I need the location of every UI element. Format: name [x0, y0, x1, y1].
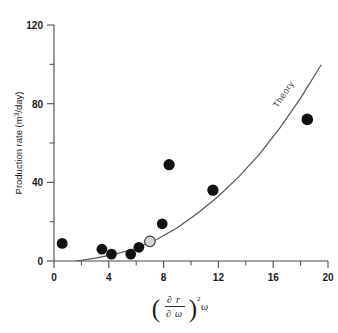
x-axis-title-numerator-var: r — [176, 294, 180, 305]
x-axis-title-numerator-partial: ∂ — [167, 294, 172, 305]
data-points-highlighted — [145, 236, 156, 247]
x-axis-minor-ticks — [81, 261, 300, 266]
x-tick-label-8: 8 — [161, 272, 167, 283]
theory-label-group: Theory — [271, 79, 296, 110]
y-tick-label-120: 120 — [26, 20, 43, 31]
x-axis-title-trailing-var: ω — [201, 301, 208, 312]
x-tick-label-12: 12 — [213, 272, 225, 283]
x-axis-title-denominator-partial: ∂ — [166, 308, 171, 319]
y-tick-label-0: 0 — [37, 256, 43, 267]
svg-text:Production rate (m3/day): Production rate (m3/day) — [13, 92, 25, 195]
x-tick-label-0: 0 — [51, 272, 57, 283]
data-point — [302, 114, 314, 126]
x-tick-label-4: 4 — [106, 272, 112, 283]
x-tick-label-20: 20 — [322, 272, 334, 283]
x-tick-label-16: 16 — [268, 272, 280, 283]
data-point — [106, 249, 117, 260]
theory-label: Theory — [271, 79, 296, 110]
y-tick-label-80: 80 — [32, 99, 44, 110]
data-point — [57, 238, 68, 249]
x-axis-title-left-paren: ( — [152, 295, 160, 323]
data-point — [207, 185, 218, 196]
x-axis-title-right-paren: ) — [189, 295, 197, 323]
x-axis-title: ( ∂ r ∂ ω ) 2 ω — [152, 294, 208, 323]
x-axis-title-denominator-var: ω — [175, 308, 182, 319]
figure-container: 120 80 40 0 0 4 8 12 16 20 — [0, 0, 338, 333]
y-axis-title-suffix: /day) — [13, 92, 24, 113]
data-point — [157, 218, 168, 229]
data-point — [134, 242, 145, 253]
data-point-highlighted — [145, 236, 156, 247]
y-axis-title: Production rate (m3/day) — [13, 92, 25, 195]
data-point — [164, 159, 175, 170]
y-axis-title-prefix: Production rate (m — [13, 116, 24, 194]
data-point — [97, 244, 108, 255]
scatter-plot: 120 80 40 0 0 4 8 12 16 20 — [0, 0, 338, 333]
y-axis-minor-ticks — [50, 64, 55, 221]
y-tick-label-40: 40 — [32, 177, 44, 188]
